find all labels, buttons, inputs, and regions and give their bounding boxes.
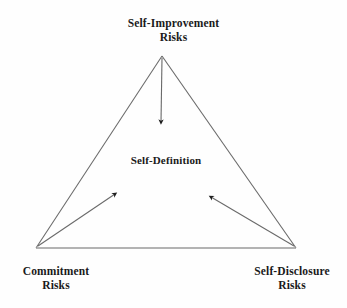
arrow-bottom-left-to-center: [38, 194, 115, 246]
vertex-label-self-improvement-risks: Self-Improvement Risks: [0, 16, 347, 44]
vertex-label-line2: Risks: [2, 278, 110, 292]
arrow-bottom-right-to-center: [211, 197, 294, 246]
vertex-label-self-disclosure-risks: Self-Disclosure Risks: [239, 264, 345, 292]
vertex-label-line1: Self-Disclosure: [254, 265, 330, 277]
triangle-side-right: [162, 56, 296, 248]
vertex-label-line2: Risks: [0, 30, 347, 44]
center-label-line1: Self-Definition: [131, 154, 202, 166]
arrow-top-to-center: [161, 58, 162, 122]
vertex-label-commitment-risks: Commitment Risks: [2, 264, 110, 292]
triangle-side-left: [36, 56, 162, 248]
vertex-label-line2: Risks: [239, 278, 345, 292]
triangle-diagram: Self-Improvement Risks Self-Definition C…: [0, 0, 347, 308]
vertex-label-line1: Commitment: [23, 265, 90, 277]
vertex-label-line1: Self-Improvement: [128, 17, 220, 29]
center-label-self-definition: Self-Definition: [86, 153, 246, 167]
